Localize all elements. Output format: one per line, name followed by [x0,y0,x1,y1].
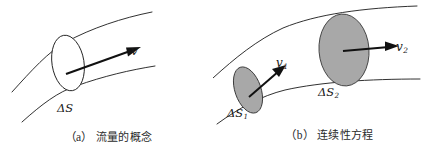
area-label-b1-sub: 1 [244,112,249,121]
caption-b-text: 连续性方程 [317,129,374,142]
velocity-label-b1-base: v [276,56,283,70]
streamtube-lower-curve-a [22,66,155,122]
caption-a: （a）流量的概念 [2,128,215,144]
area-label-b2: ΔS2 [318,87,339,99]
area-label-b2-base: ΔS [318,85,334,99]
caption-b: （b）连续性方程 [223,126,426,142]
area-label-b2-sub: 2 [335,91,340,100]
velocity-label-b2-sub: 2 [403,46,408,55]
diagram-panel-b: v1 v2 ΔS1 ΔS2 （b）连续性方程 [213,0,426,149]
diagram-panel-a: v ΔS （a）流量的概念 [0,0,213,149]
velocity-label-b1: v1 [276,57,288,71]
velocity-label-b2-base: v [396,40,403,54]
area-label-b1: ΔS1 [227,108,248,120]
area-label-b1-base: ΔS [227,106,243,120]
velocity-label-a: v [131,45,138,57]
caption-a-text: 流量的概念 [96,131,153,144]
area-label-a: ΔS [57,103,73,115]
velocity-label-b1-sub: 1 [283,62,288,71]
caption-b-index: （b） [285,129,314,141]
panel-a-graphic [0,0,213,149]
velocity-label-b2: v2 [396,41,408,55]
figure-root: v ΔS （a）流量的概念 [0,0,426,149]
caption-a-index: （a） [65,131,93,143]
